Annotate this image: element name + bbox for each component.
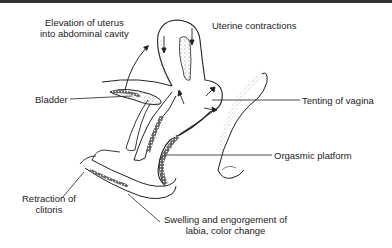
- label-uterine-contractions: Uterine contractions: [212, 20, 296, 31]
- label-text: Elevation of uterus: [40, 17, 129, 28]
- label-text: labia, color change: [164, 225, 287, 236]
- uterine-cavity: [179, 37, 191, 81]
- elevation-arrow-icon: [125, 48, 146, 90]
- label-elevation-of-uterus: Elevation of uterus into abdominal cavit…: [40, 17, 129, 39]
- label-tenting-of-vagina: Tenting of vagina: [302, 95, 374, 106]
- tenting-arrows-icon: [178, 87, 217, 112]
- label-orgasmic-platform: Orgasmic platform: [274, 150, 352, 161]
- orgasmic-platform: [162, 136, 178, 184]
- label-bladder: Bladder: [35, 94, 68, 105]
- label-swelling-of-labia: Swelling and engorgement of labia, color…: [164, 214, 287, 236]
- leader-lines: [62, 96, 300, 222]
- abdominal-wall-line: [102, 80, 172, 86]
- label-text: Retraction of: [22, 193, 76, 204]
- label-text: into abdominal cavity: [40, 28, 129, 39]
- label-text: Swelling and engorgement of: [164, 214, 287, 225]
- label-text: clitoris: [22, 204, 76, 215]
- label-retraction-of-clitoris: Retraction of clitoris: [22, 193, 76, 215]
